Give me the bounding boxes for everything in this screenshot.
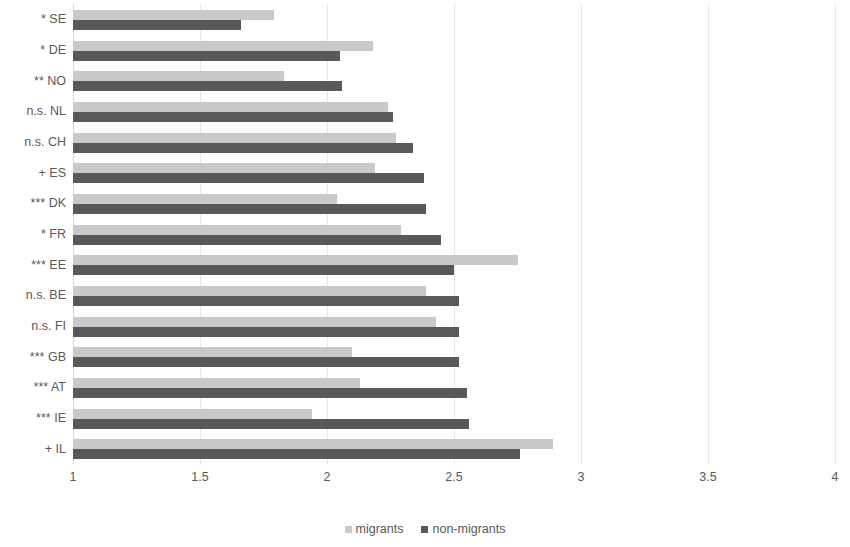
- bar-non-migrants: [73, 143, 413, 153]
- category-label: *** EE: [0, 258, 66, 272]
- category-label: *** GB: [0, 350, 66, 364]
- bar-migrants: [73, 102, 388, 112]
- bar-row: [73, 433, 835, 464]
- plot-area: [73, 4, 835, 464]
- category-label: n.s. FI: [0, 319, 66, 333]
- bar-migrants: [73, 347, 352, 357]
- x-tick-label: 3: [578, 470, 585, 484]
- bar-non-migrants: [73, 296, 459, 306]
- legend-swatch-icon: [421, 526, 428, 533]
- bar-row: [73, 341, 835, 372]
- category-label: + ES: [0, 166, 66, 180]
- x-tick-label: 1: [70, 470, 77, 484]
- bar-non-migrants: [73, 173, 424, 183]
- bar-migrants: [73, 286, 426, 296]
- bar-migrants: [73, 439, 553, 449]
- x-tick-label: 4: [832, 470, 839, 484]
- category-label: *** DK: [0, 196, 66, 210]
- bar-non-migrants: [73, 81, 342, 91]
- bar-migrants: [73, 133, 396, 143]
- gridline: [835, 4, 836, 464]
- category-label: * FR: [0, 227, 66, 241]
- horizontal-bar-chart: * SE* DE** NOn.s. NLn.s. CH+ ES*** DK* F…: [0, 0, 850, 547]
- bar-row: [73, 35, 835, 66]
- category-axis-labels: * SE* DE** NOn.s. NLn.s. CH+ ES*** DK* F…: [0, 4, 66, 464]
- bar-non-migrants: [73, 388, 467, 398]
- bar-non-migrants: [73, 112, 393, 122]
- bar-migrants: [73, 409, 312, 419]
- category-label: *** IE: [0, 411, 66, 425]
- bar-row: [73, 372, 835, 403]
- bar-row: [73, 249, 835, 280]
- bar-non-migrants: [73, 357, 459, 367]
- bar-non-migrants: [73, 327, 459, 337]
- bar-migrants: [73, 255, 518, 265]
- bar-row: [73, 96, 835, 127]
- bar-non-migrants: [73, 20, 241, 30]
- legend-label: migrants: [356, 522, 404, 536]
- bar-row: [73, 403, 835, 434]
- bar-non-migrants: [73, 235, 441, 245]
- bar-migrants: [73, 378, 360, 388]
- bar-row: [73, 65, 835, 96]
- category-label: * DE: [0, 43, 66, 57]
- x-tick-label: 1.5: [191, 470, 208, 484]
- bar-non-migrants: [73, 204, 426, 214]
- bar-rows: [73, 4, 835, 464]
- x-tick-label: 3.5: [699, 470, 716, 484]
- category-label: n.s. CH: [0, 135, 66, 149]
- category-label: n.s. BE: [0, 288, 66, 302]
- bar-migrants: [73, 41, 373, 51]
- bar-non-migrants: [73, 449, 520, 459]
- bar-migrants: [73, 194, 337, 204]
- chart-legend: migrantsnon-migrants: [0, 522, 850, 536]
- category-label: ** NO: [0, 74, 66, 88]
- bar-non-migrants: [73, 419, 469, 429]
- bar-row: [73, 4, 835, 35]
- category-label: *** AT: [0, 380, 66, 394]
- category-label: + IL: [0, 442, 66, 456]
- bar-row: [73, 188, 835, 219]
- bar-migrants: [73, 71, 284, 81]
- bar-row: [73, 280, 835, 311]
- bar-non-migrants: [73, 51, 340, 61]
- x-axis-tick-labels: 11.522.533.54: [0, 470, 850, 494]
- category-label: * SE: [0, 12, 66, 26]
- x-tick-label: 2.5: [445, 470, 462, 484]
- bar-migrants: [73, 10, 274, 20]
- category-label: n.s. NL: [0, 104, 66, 118]
- legend-item-non-migrants[interactable]: non-migrants: [421, 522, 505, 536]
- bar-migrants: [73, 317, 436, 327]
- legend-swatch-icon: [345, 526, 352, 533]
- bar-row: [73, 311, 835, 342]
- legend-item-migrants[interactable]: migrants: [345, 522, 404, 536]
- x-tick-label: 2: [324, 470, 331, 484]
- bar-migrants: [73, 225, 401, 235]
- bar-non-migrants: [73, 265, 454, 275]
- bar-row: [73, 219, 835, 250]
- bar-migrants: [73, 163, 375, 173]
- bar-row: [73, 157, 835, 188]
- legend-label: non-migrants: [432, 522, 505, 536]
- bar-row: [73, 127, 835, 158]
